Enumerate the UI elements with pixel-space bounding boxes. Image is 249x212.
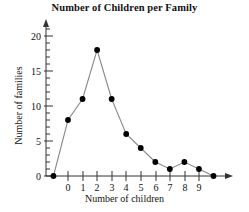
y-tick-label: 10: [31, 101, 41, 112]
x-axis-label: Number of children: [0, 193, 249, 204]
data-point: [152, 159, 158, 165]
data-point: [182, 159, 188, 165]
data-point: [94, 47, 100, 53]
y-tick-label: 15: [31, 66, 41, 77]
plot-area: 0 5 10 15 20 0 1 2 3 4 5 6: [0, 0, 249, 212]
y-tick-label: 0: [36, 171, 41, 182]
data-point: [138, 145, 144, 151]
x-tick-label: 2: [95, 182, 100, 193]
data-series-markers: [51, 47, 217, 179]
y-tick-label: 5: [36, 136, 41, 147]
data-point: [109, 96, 115, 102]
y-tick-label: 20: [31, 31, 41, 42]
x-tick-label: 6: [154, 182, 159, 193]
data-point: [65, 117, 71, 123]
data-point: [80, 96, 86, 102]
data-point: [167, 166, 173, 172]
x-tick-label: 1: [81, 182, 86, 193]
data-point: [211, 173, 217, 179]
y-axis-label: Number of families: [13, 41, 24, 171]
y-axis-minor-ticks: [46, 29, 50, 169]
x-tick-label: 7: [168, 182, 173, 193]
data-point: [51, 173, 57, 179]
x-tick-label: 0: [66, 182, 71, 193]
data-point: [123, 131, 129, 137]
x-tick-label: 9: [197, 182, 202, 193]
y-axis-tick-labels: 0 5 10 15 20: [31, 31, 41, 182]
x-axis: [46, 173, 233, 179]
x-axis-tick-labels: 0 1 2 3 4 5 6 7 8 9: [66, 182, 202, 193]
data-series-line: [53, 50, 213, 176]
x-tick-label: 8: [183, 182, 188, 193]
x-tick-label: 4: [124, 182, 129, 193]
x-tick-label: 5: [139, 182, 144, 193]
chart-container: Number of Children per Family: [0, 0, 249, 212]
x-tick-label: 3: [110, 182, 115, 193]
data-point: [196, 166, 202, 172]
